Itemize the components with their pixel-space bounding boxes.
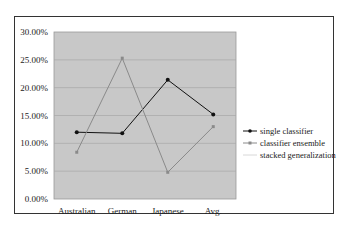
legend-label: stacked generalization bbox=[260, 150, 337, 160]
legend-marker bbox=[248, 129, 252, 133]
data-point bbox=[75, 130, 79, 134]
legend-marker bbox=[249, 142, 252, 145]
y-tick-label: 10.00% bbox=[20, 138, 48, 148]
data-point bbox=[166, 78, 170, 82]
data-point bbox=[166, 171, 169, 174]
y-tick-label: 30.00% bbox=[20, 27, 48, 37]
data-point bbox=[75, 151, 78, 154]
y-tick-label: 25.00% bbox=[20, 55, 48, 65]
data-point bbox=[212, 125, 215, 128]
data-point bbox=[121, 57, 124, 60]
x-tick-label: Japanese bbox=[152, 206, 184, 216]
data-point bbox=[211, 112, 215, 116]
line-chart: 0.00%5.00%10.00%15.00%20.00%25.00%30.00%… bbox=[0, 0, 349, 236]
y-tick-label: 15.00% bbox=[20, 111, 48, 121]
y-tick-label: 0.00% bbox=[25, 194, 49, 204]
y-tick-label: 20.00% bbox=[20, 83, 48, 93]
y-tick-label: 5.00% bbox=[25, 166, 49, 176]
x-tick-label: Australian bbox=[58, 206, 96, 216]
data-point bbox=[120, 131, 124, 135]
x-tick-label: Avg. bbox=[205, 206, 222, 216]
x-tick-label: German bbox=[108, 206, 137, 216]
legend-label: single classifier bbox=[260, 126, 313, 136]
legend-label: classifier ensemble bbox=[260, 138, 325, 148]
